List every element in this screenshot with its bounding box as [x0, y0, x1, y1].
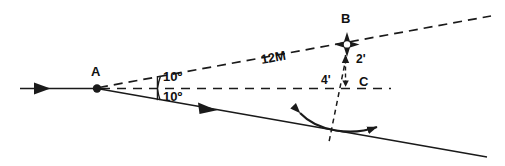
- offset-label-ac: 4': [321, 74, 331, 86]
- angle-arcs: [157, 76, 160, 100]
- course-line: [97, 89, 487, 158]
- point-label-a: A: [91, 65, 100, 78]
- inbound-track-line: [20, 83, 97, 95]
- dimension-bc-lower-head: [342, 81, 348, 87]
- point-label-c: C: [359, 75, 368, 88]
- offset-label-bc: 2': [356, 53, 366, 65]
- inbound-track-arrow: [34, 83, 51, 95]
- course-line-arrow: [198, 103, 217, 115]
- point-label-b: B: [341, 12, 350, 25]
- point-a-marker: [93, 84, 101, 92]
- dimension-bc: [342, 55, 348, 87]
- diagram-svg: [0, 0, 505, 166]
- angle-label-upper: 10º: [163, 70, 182, 83]
- swing-rotation-arrow: [300, 113, 377, 132]
- angle-label-lower: 10º: [163, 90, 182, 103]
- diagram-canvas: A B C 10º 10º 12M 2' 4': [0, 0, 505, 166]
